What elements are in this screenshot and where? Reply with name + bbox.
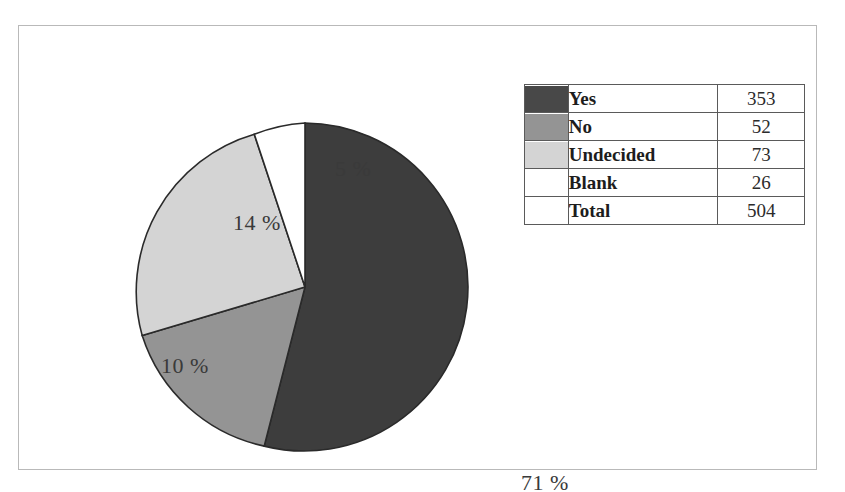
table-row: Yes 353 xyxy=(525,85,805,113)
pie-label-undecided-percent: 14 % xyxy=(233,210,281,236)
figure-frame: 5 % 14 % 10 % 71 % Yes 353 No 52 xyxy=(18,25,817,470)
legend-label-blank: Blank xyxy=(568,169,718,197)
legend-data-table: Yes 353 No 52 Undecided 73 xyxy=(524,84,805,225)
legend-swatch-cell-total xyxy=(525,197,569,225)
table-row-total: Total 504 xyxy=(525,197,805,225)
table-row: Blank 26 xyxy=(525,169,805,197)
legend-label-yes: Yes xyxy=(568,85,718,113)
pie-label-yes-percent: 71 % xyxy=(521,470,569,492)
legend-label-undecided: Undecided xyxy=(568,141,718,169)
pie-label-blank-percent: 5 % xyxy=(335,156,371,182)
legend-swatch-cell-no xyxy=(525,113,569,141)
legend-value-total: 504 xyxy=(718,197,805,225)
pie-chart: 5 % 14 % 10 % 71 % xyxy=(123,98,491,460)
legend-swatch-undecided xyxy=(525,142,568,168)
table-row: Undecided 73 xyxy=(525,141,805,169)
legend-swatch-blank xyxy=(525,170,568,196)
legend-value-yes: 353 xyxy=(718,85,805,113)
legend-label-no: No xyxy=(568,113,718,141)
legend-value-blank: 26 xyxy=(718,169,805,197)
legend-value-undecided: 73 xyxy=(718,141,805,169)
legend-swatch-yes xyxy=(525,86,568,112)
pie-chart-svg xyxy=(123,98,491,460)
legend-swatch-cell-undecided xyxy=(525,141,569,169)
legend-swatch-cell-blank xyxy=(525,169,569,197)
legend-swatch-no xyxy=(525,114,568,140)
legend-label-total: Total xyxy=(568,197,718,225)
pie-label-no-percent: 10 % xyxy=(161,353,209,379)
legend-swatch-cell-yes xyxy=(525,85,569,113)
table-row: No 52 xyxy=(525,113,805,141)
legend-value-no: 52 xyxy=(718,113,805,141)
